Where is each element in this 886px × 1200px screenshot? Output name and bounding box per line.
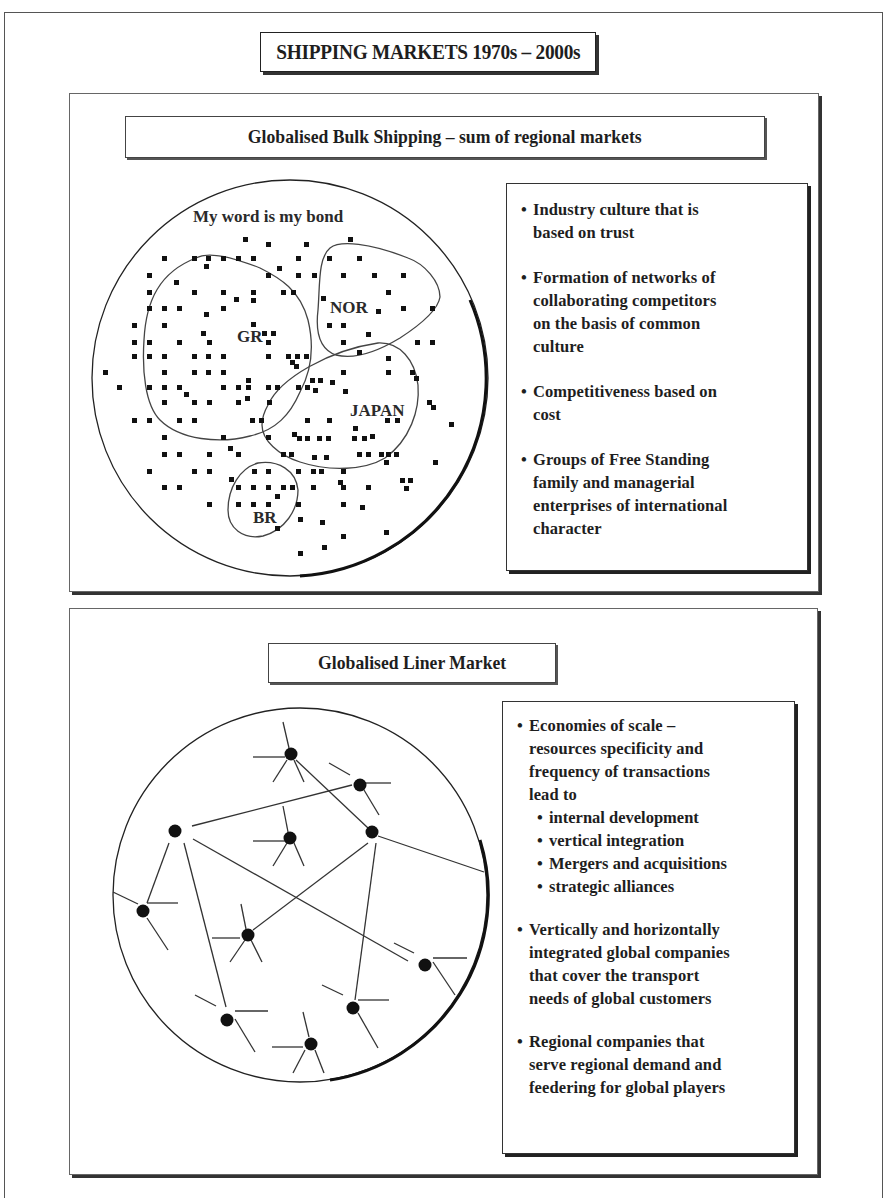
bulk-bullet: • Groups of Free Standing family and man… [521, 448, 797, 540]
bulk-bullet: • Competitiveness based on cost [521, 380, 797, 426]
bullet-icon: • [517, 918, 529, 1010]
bullet-icon: • [537, 829, 549, 852]
liner-market-panel: Globalised Liner Market • Economies of s… [69, 608, 818, 1175]
liner-sub-item: • internal development [537, 806, 784, 829]
liner-bullet: • Economies of scale – resources specifi… [517, 714, 784, 806]
bulk-title-box: Globalised Bulk Shipping – sum of region… [125, 116, 765, 158]
bullet-icon: • [521, 448, 533, 540]
liner-bullet: • Regional companies that serve regional… [517, 1030, 784, 1099]
liner-sub-list: • internal development • vertical integr… [537, 806, 784, 898]
bullet-icon: • [517, 714, 529, 806]
bulk-shipping-panel: Globalised Bulk Shipping – sum of region… [69, 93, 819, 592]
bullet-icon: • [537, 806, 549, 829]
liner-title-box: Globalised Liner Market [268, 643, 556, 683]
liner-sub-item: • Mergers and acquisitions [537, 852, 784, 875]
liner-bullet-box: • Economies of scale – resources specifi… [502, 701, 795, 1154]
bullet-icon: • [537, 875, 549, 898]
bulk-bullet-box: • Industry culture that is based on trus… [506, 183, 808, 571]
liner-sub-item: • strategic alliances [537, 875, 784, 898]
bullet-icon: • [521, 266, 533, 358]
bulk-bullet: • Industry culture that is based on trus… [521, 198, 797, 244]
bulk-bullet: • Formation of networks of collaborating… [521, 266, 797, 358]
page-title: SHIPPING MARKETS 1970s – 2000s [276, 40, 580, 65]
main-title-box: SHIPPING MARKETS 1970s – 2000s [260, 32, 596, 72]
liner-sub-item: • vertical integration [537, 829, 784, 852]
bullet-icon: • [521, 198, 533, 244]
bullet-icon: • [517, 1030, 529, 1099]
liner-title: Globalised Liner Market [318, 652, 506, 674]
bullet-icon: • [537, 852, 549, 875]
bullet-icon: • [521, 380, 533, 426]
bulk-title: Globalised Bulk Shipping – sum of region… [248, 126, 642, 148]
liner-bullet: • Vertically and horizontally integrated… [517, 918, 784, 1010]
